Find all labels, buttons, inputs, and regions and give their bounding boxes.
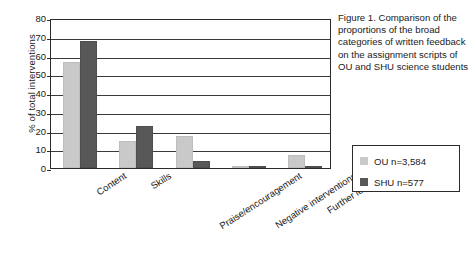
y-tick-label: 70 bbox=[18, 33, 46, 43]
y-tick-label: 40 bbox=[18, 89, 46, 99]
bar bbox=[119, 141, 136, 168]
chart-legend: OU n=3,584SHU n=577 bbox=[352, 145, 460, 192]
bar bbox=[305, 166, 322, 168]
legend-item: SHU n=577 bbox=[360, 174, 459, 190]
bar-group bbox=[176, 20, 210, 168]
figure-caption: Figure 1. Comparison of the proportions … bbox=[338, 12, 474, 73]
y-tick-label: 50 bbox=[18, 71, 46, 81]
y-tick-label: 60 bbox=[18, 52, 46, 62]
bar bbox=[193, 161, 210, 169]
bar-group bbox=[288, 20, 322, 168]
x-axis-label: Content bbox=[94, 170, 128, 197]
bar bbox=[288, 155, 305, 168]
x-axis-category-labels: ContentSkillsPraise/encouragementNegativ… bbox=[50, 170, 331, 260]
bars-layer bbox=[51, 20, 330, 168]
bar-group bbox=[232, 20, 266, 168]
y-tick-label: 20 bbox=[18, 127, 46, 137]
y-tick-label: 80 bbox=[18, 14, 46, 24]
y-tick-label: 30 bbox=[18, 108, 46, 118]
bar bbox=[136, 126, 153, 168]
legend-color-swatch bbox=[360, 157, 368, 165]
y-tick-label: 0 bbox=[18, 164, 46, 174]
bar-group bbox=[63, 20, 97, 168]
bar bbox=[249, 166, 266, 168]
y-tick-label: 10 bbox=[18, 146, 46, 156]
legend-item: OU n=3,584 bbox=[360, 153, 459, 169]
bar bbox=[232, 166, 249, 168]
legend-label: OU n=3,584 bbox=[374, 156, 426, 167]
x-axis-label: Skills bbox=[149, 170, 174, 191]
legend-color-swatch bbox=[360, 178, 368, 186]
bar-group bbox=[119, 20, 153, 168]
bar bbox=[176, 136, 193, 168]
plot-area bbox=[50, 19, 331, 169]
bar-chart-figure: % of total interventions 010203040506070… bbox=[0, 0, 340, 261]
bar bbox=[63, 62, 80, 168]
bar bbox=[80, 41, 97, 169]
legend-label: SHU n=577 bbox=[374, 177, 424, 188]
y-axis-tick-labels: 01020304050607080 bbox=[18, 19, 46, 169]
